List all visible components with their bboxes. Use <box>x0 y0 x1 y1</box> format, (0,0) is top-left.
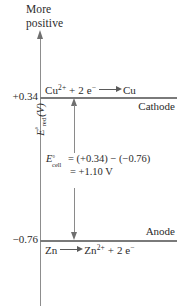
anode-product: Zn <box>84 244 96 256</box>
anode-electron-charge: − <box>130 243 134 252</box>
measure-arrow-down-icon <box>71 232 77 240</box>
anode-reactant: Zn <box>45 244 57 256</box>
anode-product-charge: 2+ <box>97 243 105 252</box>
anode-level-line <box>40 240 177 242</box>
measure-arrow-shaft-top <box>74 105 75 153</box>
anode-half-reaction: Zn Zn2+ + 2 e− <box>45 243 135 256</box>
cathode-level-line <box>40 97 177 99</box>
cathode-electrode-label: Cathode <box>0 100 175 112</box>
more-positive-caption: More positive <box>26 3 63 30</box>
reaction-arrow-icon <box>60 245 84 254</box>
reaction-arrow-icon <box>99 85 123 94</box>
cell-symbol-subscript: cell <box>52 158 61 171</box>
measure-arrow-shaft-bottom <box>74 188 75 234</box>
cell-potential-symbol: E°cell <box>46 152 68 165</box>
cathode-half-reaction: Cu2+ + 2 e− Cu <box>45 83 136 96</box>
cell-potential-equation: E°cell = (+0.34) − (−0.76) <box>46 152 150 165</box>
y-axis-superscript: ° <box>34 127 42 130</box>
y-axis-subscript: red <box>40 118 48 127</box>
anode-electrode-label: Anode <box>0 225 175 237</box>
y-axis-symbol: E <box>35 129 46 135</box>
vertical-axis-arrowhead-icon <box>37 30 43 39</box>
cathode-electrons: + 2 e <box>66 84 91 96</box>
cathode-product: Cu <box>123 84 136 96</box>
cathode-reactant: Cu <box>45 84 58 96</box>
cathode-electron-charge: − <box>92 83 96 92</box>
cell-equation-line1: = (+0.34) − (−0.76) <box>68 153 150 164</box>
cathode-reactant-charge: 2+ <box>58 83 66 92</box>
cell-potential-diagram: More positive E°red (V) +0.34 Cu2+ + 2 e… <box>0 0 177 306</box>
anode-electrons: + 2 e <box>105 244 130 256</box>
cell-equation-line2: = +1.10 V <box>70 166 113 177</box>
